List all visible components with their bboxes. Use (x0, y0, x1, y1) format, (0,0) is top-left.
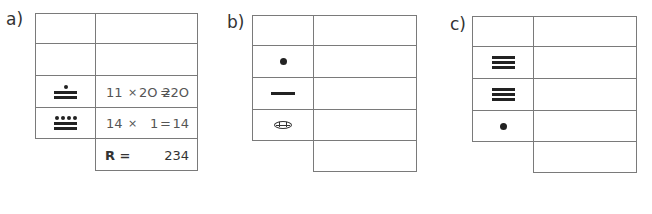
calc-14-num: 14 (106, 116, 123, 131)
glyph-cell (472, 110, 534, 142)
calc-cell[interactable] (533, 16, 637, 47)
mayan-zero-shell-icon (274, 121, 292, 129)
glyph-cell (35, 75, 96, 108)
calc-cell[interactable] (533, 46, 637, 79)
calc-cell[interactable] (533, 78, 637, 111)
glyph-cell (472, 78, 534, 111)
calc-14-base: 1 (150, 116, 158, 131)
calc-cell[interactable] (95, 13, 198, 44)
mayan-eleven-icon (54, 85, 77, 99)
exercise-c-label: c) (450, 14, 466, 34)
calc-11-times: × (128, 85, 137, 98)
glyph-cell (252, 15, 314, 46)
calc-cell[interactable] (533, 110, 637, 142)
calc-14-result: 14 (172, 116, 189, 131)
glyph-cell (35, 13, 96, 44)
result-value: 234 (164, 147, 189, 162)
mayan-five-icon (271, 92, 295, 95)
exercise-b-label: b) (227, 12, 244, 32)
calc-11-result: 22O (162, 84, 189, 99)
result-label: R = (105, 147, 130, 162)
calc-cell[interactable] (95, 43, 198, 76)
calc-cell[interactable]: 11 × 2O = 22O (95, 75, 198, 108)
calc-14-times: × (128, 117, 137, 130)
glyph-cell (35, 107, 96, 139)
glyph-cell (35, 43, 96, 76)
result-cell[interactable]: R = 234 (95, 138, 198, 171)
glyph-cell (472, 16, 534, 47)
mayan-fourteen-icon (54, 116, 77, 130)
calc-14-eq: = (160, 116, 171, 131)
glyph-cell (252, 109, 314, 141)
result-cell[interactable] (533, 141, 637, 173)
glyph-cell (252, 45, 314, 78)
mayan-one-icon (280, 58, 287, 65)
calc-cell[interactable]: 14 × 1 = 14 (95, 107, 198, 139)
calc-cell[interactable] (313, 109, 417, 141)
exercise-a-label: a) (6, 9, 23, 29)
mayan-fifteen-icon (492, 88, 515, 101)
glyph-cell (252, 77, 314, 110)
calc-11-num: 11 (106, 84, 123, 99)
result-cell[interactable] (313, 140, 417, 172)
calc-cell[interactable] (313, 45, 417, 78)
calc-cell[interactable] (313, 15, 417, 46)
glyph-cell (472, 46, 534, 79)
calc-cell[interactable] (313, 77, 417, 110)
mayan-fifteen-icon (492, 56, 515, 69)
calc-11-base: 2O (139, 84, 158, 99)
mayan-one-icon (500, 123, 507, 130)
